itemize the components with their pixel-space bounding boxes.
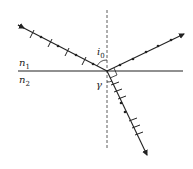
refraction-angle-label: γ (96, 80, 102, 90)
incident-angle-arc (97, 60, 107, 66)
incident-angle-label: i0 (97, 47, 105, 60)
brewster-angle-diagram: n1 n2 i0 γ (0, 0, 193, 169)
refraction-angle-arc (107, 81, 112, 82)
reflected-ray (107, 34, 184, 71)
refracted-ray (107, 71, 147, 155)
n1-label: n1 (19, 58, 30, 71)
n2-label: n2 (19, 75, 30, 88)
incident-ray (18, 25, 107, 71)
